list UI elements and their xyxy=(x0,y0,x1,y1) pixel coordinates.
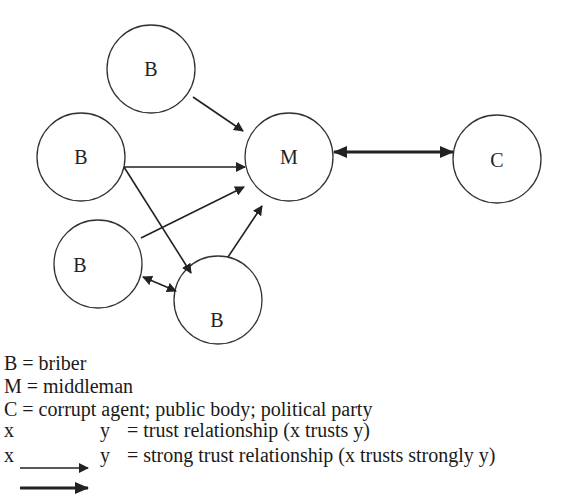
legend-text: B = briber xyxy=(4,352,86,374)
legend-x-label: x xyxy=(4,444,14,467)
node-label: M xyxy=(280,146,298,168)
node-label: B xyxy=(73,254,86,276)
edge-b3-to-m xyxy=(141,187,244,238)
legend-desc: = trust relationship (x trusts y) xyxy=(127,419,370,442)
node-briber-lower-left: B xyxy=(54,220,142,308)
edge-b4-to-m xyxy=(228,206,262,257)
node-middleman: M xyxy=(245,113,333,201)
edge-b3-b4-mutual xyxy=(143,277,176,291)
legend-y-label: y xyxy=(100,419,110,442)
node-briber-top: B xyxy=(107,25,195,113)
edge-b1-to-m xyxy=(193,97,243,131)
legend-item-briber: B = briber xyxy=(4,352,372,375)
legend-item-trust: x y = trust relationship (x trusts y) xyxy=(4,419,372,442)
legend-text: C = corrupt agent; public body; politica… xyxy=(4,398,372,420)
node-corrupt-agent: C xyxy=(453,115,541,203)
legend-x-label: x xyxy=(4,419,14,442)
node-label: B xyxy=(144,58,157,80)
legend-text: M = middleman xyxy=(4,375,133,397)
legend-item-middleman: M = middleman xyxy=(4,375,372,398)
node-label: C xyxy=(490,149,503,171)
legend-item-strong-trust: x y = strong trust relationship (x trust… xyxy=(4,444,372,467)
node-label: B xyxy=(74,146,87,168)
node-label: B xyxy=(210,309,223,331)
legend-desc: = strong trust relationship (x trusts st… xyxy=(127,444,495,467)
legend-item-corrupt-agent: C = corrupt agent; public body; politica… xyxy=(4,398,372,421)
node-briber-bottom: B xyxy=(174,256,262,344)
legend-y-label: y xyxy=(100,444,110,467)
legend: B = briber M = middleman C = corrupt age… xyxy=(4,352,372,467)
node-briber-left: B xyxy=(37,113,125,201)
